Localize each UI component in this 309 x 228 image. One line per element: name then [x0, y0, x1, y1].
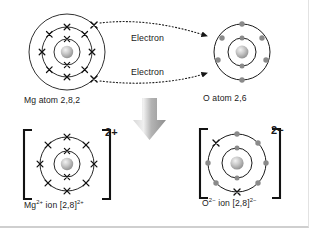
o-ion-diagram	[200, 129, 280, 198]
mg-ion-label-mid: ion [2,8]	[43, 200, 77, 210]
mg-ion-label: Mg2+ ion [2,8]2+	[24, 199, 84, 210]
o-atom-nucleus	[236, 46, 249, 59]
diagram-canvas: Mg atom 2,8,2 O atom 2,6 Electron Electr…	[0, 0, 309, 228]
mg-atom-label: Mg atom 2,8,2	[24, 95, 80, 105]
mg-ion-nucleus	[61, 158, 73, 170]
o-ion-label-sup-2: 2−	[250, 197, 257, 203]
mg-ion-charge-label: 2+	[105, 126, 118, 138]
mg-atom-nucleus	[61, 46, 73, 58]
reaction-arrow	[133, 98, 166, 140]
mg-ion-label-base: Mg	[24, 200, 36, 210]
o-ion-label-mid: ion [2,8]	[216, 198, 250, 208]
mg-ion-label-sup-1: 2+	[36, 199, 43, 205]
o-ion-charge-label: 2−	[271, 124, 284, 136]
o-ion-label-sup-1: 2−	[209, 197, 216, 203]
o-ion-nucleus	[230, 156, 243, 169]
o-ion-label-base: O	[202, 198, 209, 208]
mg-ion-label-sup-2: 2+	[77, 199, 84, 205]
o-atom-label: O atom 2,6	[203, 93, 247, 103]
o-atom-diagram	[214, 21, 270, 82]
mg-atom-diagram	[29, 14, 105, 90]
o-ion-label: O2− ion [2,8]2−	[202, 197, 256, 208]
mg-ion-diagram	[24, 130, 110, 199]
electron-transfer-label-2: Electron	[131, 67, 164, 77]
electron-transfer-label-1: Electron	[131, 33, 164, 43]
